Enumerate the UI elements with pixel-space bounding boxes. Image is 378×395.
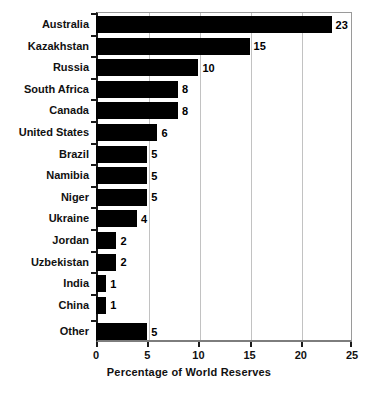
category-label: Jordan [52, 232, 89, 249]
y-axis-tick [91, 320, 96, 322]
x-axis-tick [198, 342, 200, 347]
bar-value-label: 23 [336, 19, 348, 30]
x-axis-tick [96, 342, 98, 347]
bar-value-label: 2 [120, 257, 126, 268]
bar-row: 10 [96, 59, 352, 76]
x-axis-tick-label: 10 [192, 349, 204, 361]
x-axis-tick-label: 25 [346, 349, 358, 361]
bar-row: 1 [96, 297, 352, 314]
bar-value-label: 1 [110, 278, 116, 289]
bar [96, 189, 147, 206]
bar-value-label: 5 [151, 326, 157, 337]
bars-layer: 231510886555422115 [96, 12, 352, 342]
x-axis-tick-label: 15 [243, 349, 255, 361]
x-axis-tick-label: 20 [295, 349, 307, 361]
y-axis-tick [91, 143, 96, 145]
bar-value-label: 8 [182, 84, 188, 95]
y-axis-tick [91, 251, 96, 253]
bar [96, 124, 157, 141]
y-axis-tick [91, 229, 96, 231]
bar-chart: 231510886555422115 AustraliaKazakhstanRu… [0, 0, 378, 395]
category-label: Other [60, 323, 89, 340]
category-label: Uzbekistan [31, 254, 89, 271]
bar [96, 323, 147, 340]
bar-row: 5 [96, 189, 352, 206]
y-axis-tick [91, 13, 96, 15]
bar-value-label: 15 [254, 41, 266, 52]
category-label: Ukraine [49, 210, 89, 227]
bar-row: 2 [96, 232, 352, 249]
y-axis-tick [91, 78, 96, 80]
category-label: Brazil [59, 146, 89, 163]
bar-value-label: 1 [110, 300, 116, 311]
y-axis-tick [91, 121, 96, 123]
category-label: India [63, 275, 89, 292]
bar-row: 8 [96, 102, 352, 119]
x-axis-tick-label: 5 [144, 349, 150, 361]
bar [96, 254, 116, 271]
category-label: United States [19, 124, 89, 141]
bar-value-label: 5 [151, 170, 157, 181]
y-axis-tick [91, 207, 96, 209]
bar-value-label: 2 [120, 235, 126, 246]
bar [96, 297, 106, 314]
category-label: China [58, 297, 89, 314]
category-label: Russia [53, 59, 89, 76]
bar-row: 1 [96, 275, 352, 292]
bar-row: 23 [96, 16, 352, 33]
bar-value-label: 6 [161, 127, 167, 138]
y-axis-tick [91, 99, 96, 101]
bar [96, 275, 106, 292]
y-axis-tick [91, 56, 96, 58]
y-axis-tick [91, 164, 96, 166]
bar [96, 16, 332, 33]
x-axis-tick-label: 0 [93, 349, 99, 361]
x-axis-tick [147, 342, 149, 347]
bar-value-label: 5 [151, 192, 157, 203]
category-label: Kazakhstan [28, 38, 89, 55]
bar [96, 232, 116, 249]
bar-row: 5 [96, 146, 352, 163]
bar-row: 15 [96, 38, 352, 55]
x-axis-tick [301, 342, 303, 347]
bar-value-label: 8 [182, 105, 188, 116]
bar [96, 59, 198, 76]
category-label: Canada [49, 102, 89, 119]
category-label: Namibia [46, 167, 89, 184]
x-axis-tick [250, 342, 252, 347]
bar-row: 5 [96, 167, 352, 184]
x-axis-tick [350, 342, 352, 347]
bar-row: 2 [96, 254, 352, 271]
bar [96, 81, 178, 98]
y-axis-tick [91, 186, 96, 188]
bar [96, 210, 137, 227]
bar [96, 167, 147, 184]
bar-value-label: 5 [151, 149, 157, 160]
category-label: Niger [61, 189, 89, 206]
bar-row: 8 [96, 81, 352, 98]
bar-value-label: 4 [141, 213, 147, 224]
bar-value-label: 10 [202, 62, 214, 73]
value-axis: 0510152025 [96, 342, 352, 368]
bar [96, 38, 250, 55]
bar [96, 146, 147, 163]
y-axis-tick [91, 35, 96, 37]
x-axis-title: Percentage of World Reserves [0, 366, 378, 378]
category-axis: AustraliaKazakhstanRussiaSouth AfricaCan… [0, 12, 96, 342]
bar-row: 4 [96, 210, 352, 227]
category-label: South Africa [24, 81, 89, 98]
bar [96, 102, 178, 119]
y-axis-tick [91, 272, 96, 274]
y-axis-tick [91, 294, 96, 296]
category-label: Australia [42, 16, 89, 33]
bar-row: 6 [96, 124, 352, 141]
bar-row: 5 [96, 323, 352, 340]
